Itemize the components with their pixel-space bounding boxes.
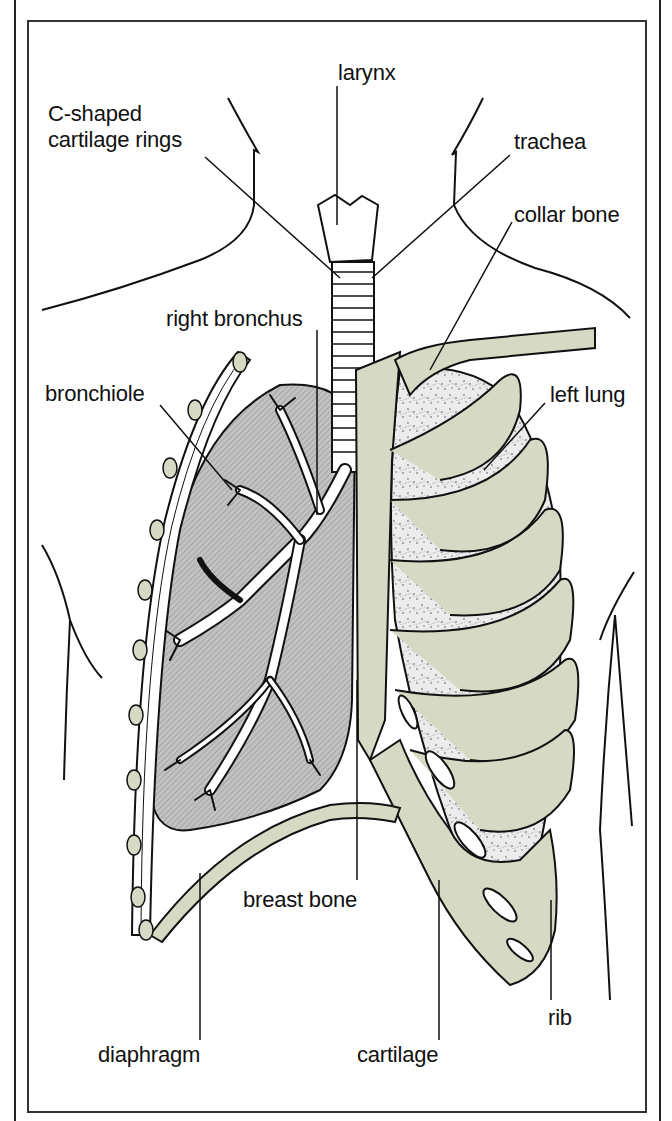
label-collar-bone: collar bone [514,202,619,228]
label-bronchiole: bronchiole [45,381,145,407]
respiratory-system-illustration [0,0,672,1121]
label-breast-bone: breast bone [243,887,357,913]
label-left-lung: left lung [550,382,625,408]
label-larynx: larynx [338,60,396,86]
label-right-bronchus: right bronchus [166,306,303,332]
label-c-shaped-line2: cartilage rings [48,127,182,153]
label-rib: rib [548,1005,572,1031]
label-c-shaped-line1: C-shaped [48,101,142,127]
label-trachea: trachea [514,129,586,155]
larynx-shape [318,195,378,262]
label-diaphragm: diaphragm [98,1042,200,1068]
label-cartilage: cartilage [357,1042,438,1068]
